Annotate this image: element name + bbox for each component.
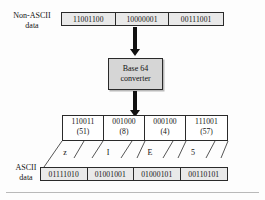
bottom-divider bbox=[6, 192, 259, 193]
connector-line bbox=[206, 141, 215, 158]
group-bits: 111001 bbox=[186, 117, 227, 127]
output-byte-cell: 00110101 bbox=[181, 168, 227, 180]
base64-conversion-diagram: Non-ASCII data 11001100 10000001 0011100… bbox=[0, 0, 265, 200]
group-bits: 001000 bbox=[104, 117, 144, 127]
converter-label-line2: converter bbox=[120, 74, 150, 84]
base64-converter-box: Base 64 converter bbox=[108, 58, 163, 90]
connector-line bbox=[121, 141, 132, 158]
group-cell: 001000 (8) bbox=[104, 116, 145, 140]
base64-char-label: z bbox=[58, 148, 72, 157]
non-ascii-data-label-line1: Non-ASCII bbox=[6, 11, 58, 21]
input-byte-cell: 11001100 bbox=[62, 13, 116, 25]
group-cell: 000100 (4) bbox=[145, 116, 186, 140]
group-decimal: (57) bbox=[186, 127, 227, 137]
connector-line bbox=[74, 141, 84, 158]
non-ascii-data-label: Non-ASCII data bbox=[6, 11, 58, 30]
input-byte-cell: 10000001 bbox=[116, 13, 170, 25]
ascii-output-strip: 01111010 01001001 01000101 00110101 bbox=[40, 167, 228, 181]
arrow-converter-to-groups bbox=[128, 91, 142, 117]
arrow-shaft bbox=[133, 91, 137, 110]
base64-char-label: 5 bbox=[186, 148, 200, 157]
base64-group-table: 110011 (51) 001000 (8) 000100 (4) 111001… bbox=[62, 115, 228, 141]
input-byte-cell: 00111001 bbox=[169, 13, 223, 25]
group-decimal: (4) bbox=[145, 127, 185, 137]
output-byte-cell: 01001001 bbox=[88, 168, 135, 180]
group-bits: 000100 bbox=[145, 117, 185, 127]
arrow-input-to-converter bbox=[128, 27, 142, 56]
group-cell: 111001 (57) bbox=[186, 116, 227, 140]
output-byte-cell: 01000101 bbox=[134, 168, 181, 180]
connector-line bbox=[178, 141, 186, 158]
connector-line bbox=[221, 141, 228, 158]
arrow-shaft bbox=[133, 27, 137, 49]
non-ascii-input-strip: 11001100 10000001 00111001 bbox=[61, 12, 224, 26]
non-ascii-data-label-line2: data bbox=[6, 21, 58, 31]
group-cell: 110011 (51) bbox=[63, 116, 104, 140]
group-bits: 110011 bbox=[63, 117, 103, 127]
base64-char-label: I bbox=[101, 148, 115, 157]
group-decimal: (51) bbox=[63, 127, 103, 137]
connector-line bbox=[163, 141, 173, 158]
converter-label-line1: Base 64 bbox=[123, 64, 149, 74]
base64-char-label: E bbox=[143, 148, 157, 157]
output-byte-cell: 01111010 bbox=[41, 168, 88, 180]
arrow-head bbox=[130, 49, 140, 56]
group-decimal: (8) bbox=[104, 127, 144, 137]
